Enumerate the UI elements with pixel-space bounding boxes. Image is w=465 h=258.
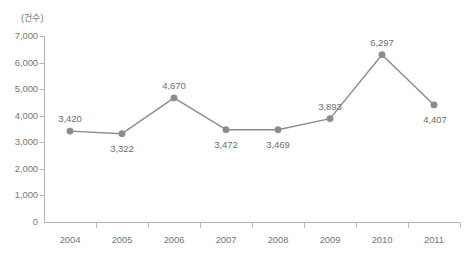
data-point-marker (119, 131, 125, 137)
y-axis-tick-label: 7,000 (0, 30, 38, 41)
y-axis-tick-label: 3,000 (0, 136, 38, 147)
y-axis-tick-label: 6,000 (0, 57, 38, 68)
y-axis-tick-label: 0 (0, 216, 38, 227)
data-point-label: 3,893 (303, 101, 357, 112)
data-point-label: 3,420 (43, 113, 97, 124)
data-point-marker (223, 127, 229, 133)
data-point-marker (67, 128, 73, 134)
y-axis-tick-label: 2,000 (0, 163, 38, 174)
y-axis-tick-label: 4,000 (0, 110, 38, 121)
data-point-label: 3,322 (95, 143, 149, 154)
data-point-marker (275, 127, 281, 133)
series-line (70, 55, 434, 134)
y-axis-tick-label: 1,000 (0, 189, 38, 200)
line-chart: (건수) 7,0006,0005,0004,0003,0002,0001,000… (0, 0, 465, 258)
x-axis-tick-label: 2006 (147, 234, 201, 245)
x-axis-tick-label: 2009 (303, 234, 357, 245)
data-point-label: 4,407 (408, 114, 462, 125)
data-point-label: 6,297 (355, 37, 409, 48)
data-point-label: 3,469 (251, 139, 305, 150)
x-axis-tick-label: 2004 (43, 234, 97, 245)
x-axis-tick-label: 2008 (251, 234, 305, 245)
data-point-marker (379, 52, 385, 58)
data-point-marker (327, 115, 333, 121)
data-point-marker (431, 102, 437, 108)
x-axis-tick-label: 2011 (407, 234, 461, 245)
x-axis-tick-label: 2005 (95, 234, 149, 245)
axes-group (40, 36, 461, 228)
data-point-markers (67, 52, 437, 137)
y-axis-tick-label: 5,000 (0, 83, 38, 94)
data-point-label: 4,670 (147, 80, 201, 91)
data-point-label: 3,472 (199, 139, 253, 150)
x-axis-tick-label: 2010 (355, 234, 409, 245)
data-point-marker (171, 95, 177, 101)
x-axis-tick-label: 2007 (199, 234, 253, 245)
data-series-line (70, 55, 434, 134)
